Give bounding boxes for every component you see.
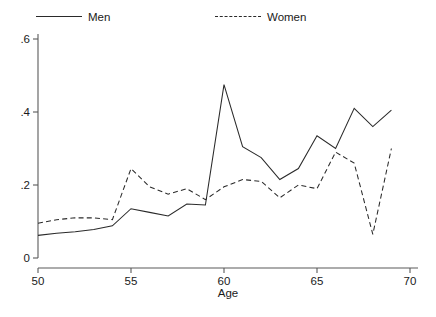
y-tick-label: .6 [20,33,30,45]
x-tick-label: 50 [32,275,45,287]
plot-area: 0.2.4.6 5055606570 Age [0,0,436,317]
x-tick-label: 70 [404,275,417,287]
x-tick-label: 65 [311,275,324,287]
chart-container: Men Women 0.2.4.6 5055606570 Age [0,0,436,317]
y-tick-label: .2 [20,179,30,191]
y-tick-label: .4 [20,106,30,118]
y-tick-group: 0.2.4.6 [20,33,38,264]
line-series-men [38,85,391,236]
x-axis: 5055606570 [32,268,418,287]
x-tick-label: 55 [125,275,138,287]
line-series-women [38,149,391,235]
y-axis: 0.2.4.6 [20,33,38,264]
y-tick-label: 0 [24,252,30,264]
x-tick-group: 5055606570 [32,268,417,287]
x-axis-title: Age [218,287,238,299]
data-series-group [38,85,391,236]
x-tick-label: 60 [218,275,231,287]
